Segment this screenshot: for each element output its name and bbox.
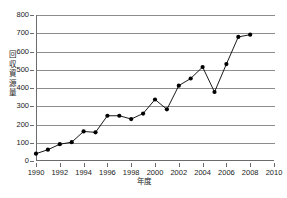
y-axis-tickmark [30, 70, 34, 71]
x-axis-tickmark [107, 163, 108, 167]
y-axis-tickmark [30, 106, 34, 107]
x-axis-title: 年度 [0, 177, 287, 186]
x-axis-tick-labels: 1990199219941996199820002002200420062008… [36, 163, 274, 177]
y-axis-tick-labels: 0100200300400500600700800 [0, 15, 34, 161]
y-axis-tick-label: 600 [16, 48, 29, 56]
y-axis-tick-label: 500 [16, 66, 29, 74]
x-axis-tick-label: 1994 [75, 168, 92, 177]
chart-container: 回収資源量 0100200300400500600700800 19901992… [0, 0, 287, 198]
x-axis-tickmark [250, 163, 251, 167]
x-axis-tickmark [226, 163, 227, 167]
x-axis-tickmark [179, 163, 180, 167]
x-axis-tick-label: 2000 [147, 168, 164, 177]
gridline [37, 33, 275, 34]
x-axis-tickmark [36, 163, 37, 167]
gridline [37, 52, 275, 53]
y-axis-tick-label: 200 [16, 121, 29, 129]
x-axis-tickmark [131, 163, 132, 167]
gridline [37, 15, 275, 16]
x-axis-tick-label: 2004 [194, 168, 211, 177]
x-axis-tick-label: 2010 [266, 168, 283, 177]
y-axis-tickmark [30, 33, 34, 34]
x-axis-tick-label: 2008 [242, 168, 259, 177]
y-axis-tickmark [30, 125, 34, 126]
y-axis-tick-label: 400 [16, 84, 29, 92]
x-axis-tick-label: 1992 [51, 168, 68, 177]
x-axis-tickmark [60, 163, 61, 167]
gridline [37, 125, 275, 126]
x-axis-tick-label: 1998 [123, 168, 140, 177]
x-axis-tick-label: 1996 [99, 168, 116, 177]
x-axis-tickmark [84, 163, 85, 167]
x-axis-tick-label: 2006 [218, 168, 235, 177]
x-axis-tickmark [274, 163, 275, 167]
y-axis-tick-label: 0 [25, 157, 29, 165]
x-axis-tick-label: 1990 [28, 168, 45, 177]
plot-area [36, 15, 274, 161]
y-axis-tick-label: 700 [16, 30, 29, 38]
y-axis-tickmark [30, 88, 34, 89]
x-axis-tickmark [155, 163, 156, 167]
x-axis-tick-label: 2002 [170, 168, 187, 177]
gridline [37, 88, 275, 89]
y-axis-tick-label: 300 [16, 103, 29, 111]
x-axis-tickmark [203, 163, 204, 167]
gridline [37, 143, 275, 144]
y-axis-tickmark [30, 15, 34, 16]
y-axis-tick-label: 800 [16, 11, 29, 19]
y-axis-tick-label: 100 [16, 139, 29, 147]
gridline [37, 70, 275, 71]
y-axis-tickmark [30, 161, 34, 162]
y-axis-tickmark [30, 52, 34, 53]
y-axis-tickmark [30, 143, 34, 144]
gridline [37, 106, 275, 107]
